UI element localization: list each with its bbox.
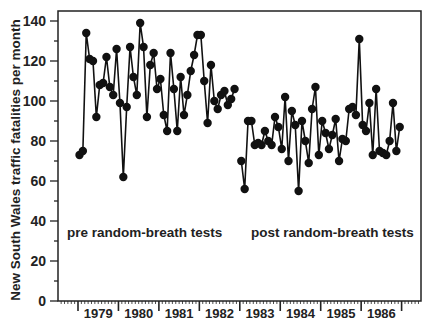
data-point [180, 111, 188, 119]
data-point [348, 103, 356, 111]
data-point [109, 91, 117, 99]
data-point [92, 113, 100, 121]
x-tick-label: 1979 [84, 306, 113, 321]
data-point [166, 49, 174, 57]
data-point [207, 61, 215, 69]
series-line [241, 39, 399, 191]
data-point [247, 117, 255, 125]
data-point [89, 57, 97, 65]
data-point [170, 85, 178, 93]
data-point [210, 97, 218, 105]
data-point [288, 107, 296, 115]
y-tick-label: 100 [23, 93, 47, 109]
y-tick-label: 40 [30, 213, 46, 229]
data-point [146, 61, 154, 69]
annotation-pre: pre random-breath tests [67, 225, 222, 240]
data-point [156, 75, 164, 83]
data-point [325, 145, 333, 153]
annotation-post: post random-breath tests [251, 225, 414, 240]
data-point [331, 115, 339, 123]
data-point [318, 117, 326, 125]
data-point [149, 49, 157, 57]
data-point [190, 51, 198, 59]
data-point [271, 113, 279, 121]
data-point [274, 123, 282, 131]
data-point [301, 137, 309, 145]
data-point [143, 113, 151, 121]
data-point [139, 43, 147, 51]
y-tick-label: 140 [23, 13, 47, 29]
x-tick-label: 1982 [205, 306, 234, 321]
data-point [136, 19, 144, 27]
data-point [284, 157, 292, 165]
data-point [305, 159, 313, 167]
data-point [240, 185, 248, 193]
y-tick-label: 60 [30, 173, 46, 189]
data-point [160, 111, 168, 119]
y-axis-label: New South Wales traffic fatalities per m… [8, 19, 23, 301]
data-point [385, 137, 393, 145]
data-point [278, 145, 286, 153]
data-point [106, 83, 114, 91]
data-point [163, 127, 171, 135]
x-tick-label: 1980 [124, 306, 153, 321]
data-point [153, 85, 161, 93]
data-point [365, 99, 373, 107]
data-point [335, 157, 343, 165]
data-point [126, 43, 134, 51]
data-point [389, 99, 397, 107]
x-tick-label: 1981 [165, 306, 194, 321]
data-point [214, 105, 222, 113]
data-point [133, 91, 141, 99]
y-tick-label: 0 [38, 293, 46, 309]
y-tick-label: 80 [30, 133, 46, 149]
data-point [220, 87, 228, 95]
data-series [75, 19, 404, 195]
data-point [281, 93, 289, 101]
data-point [197, 31, 205, 39]
data-point [362, 127, 370, 135]
x-tick-label: 1985 [326, 306, 355, 321]
data-point [102, 53, 110, 61]
data-point [328, 131, 336, 139]
data-point [261, 127, 269, 135]
data-point [187, 67, 195, 75]
data-point [119, 173, 127, 181]
data-point [315, 151, 323, 159]
y-tick-label: 20 [30, 253, 46, 269]
x-tick-label: 1984 [286, 306, 316, 321]
line-chart: 020406080100120140 197919801981198219831… [0, 0, 433, 328]
data-point [294, 187, 302, 195]
data-point [372, 85, 380, 93]
data-point [122, 103, 130, 111]
x-tick-label: 1986 [367, 306, 396, 321]
data-point [237, 157, 245, 165]
data-point [298, 117, 306, 125]
data-point [176, 73, 184, 81]
data-point [342, 137, 350, 145]
data-point [230, 85, 238, 93]
data-point [355, 35, 363, 43]
data-point [112, 45, 120, 53]
data-point [382, 151, 390, 159]
data-point [396, 123, 404, 131]
data-point [203, 119, 211, 127]
data-point [129, 73, 137, 81]
y-tick-label: 120 [23, 53, 47, 69]
data-point [308, 105, 316, 113]
x-tick-label: 1983 [246, 306, 275, 321]
data-point [79, 147, 87, 155]
data-point [200, 77, 208, 85]
data-point [392, 147, 400, 155]
data-point [227, 95, 235, 103]
plot-frame [58, 11, 421, 301]
data-point [311, 83, 319, 91]
data-point [173, 127, 181, 135]
data-point [267, 141, 275, 149]
y-axis: 020406080100120140 [23, 13, 58, 309]
x-axis: 19791980198119821983198419851986 [61, 301, 418, 321]
data-point [352, 111, 360, 119]
data-point [82, 29, 90, 37]
data-point [183, 91, 191, 99]
